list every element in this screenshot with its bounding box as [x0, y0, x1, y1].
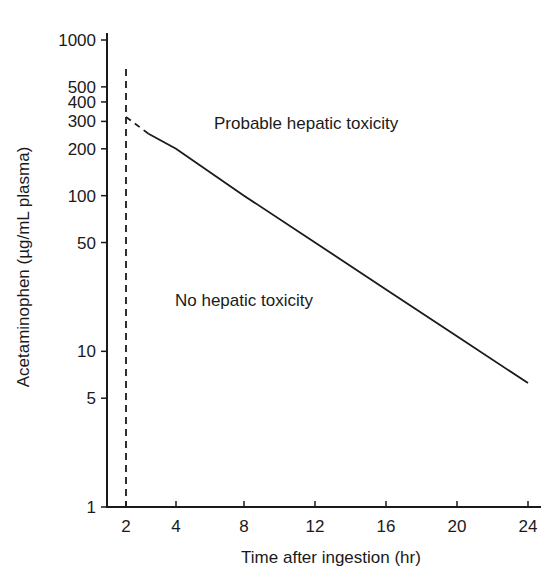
- annotation-probable-toxicity: Probable hepatic toxicity: [214, 114, 399, 133]
- y-tick-label: 5: [87, 389, 96, 408]
- x-tick-label: 24: [519, 517, 538, 536]
- y-tick-label: 50: [77, 234, 96, 253]
- x-tick-label: 8: [239, 517, 248, 536]
- y-tick-label: 1: [87, 498, 96, 517]
- x-tick-label: 12: [306, 517, 325, 536]
- y-tick-label: 200: [68, 140, 96, 159]
- acetaminophen-nomogram-chart: 1510501002003004005001000 24812162024 Pr…: [0, 0, 556, 586]
- annotation-no-toxicity: No hepatic toxicity: [175, 291, 313, 310]
- y-tick-label: 1000: [58, 31, 96, 50]
- x-tick-label: 2: [121, 517, 130, 536]
- x-axis: 24812162024: [106, 501, 541, 536]
- y-tick-label: 300: [68, 112, 96, 131]
- x-tick-label: 4: [171, 517, 180, 536]
- y-tick-label: 100: [68, 187, 96, 206]
- treatment-line-solid-segment: [149, 134, 529, 383]
- x-tick-label: 20: [448, 517, 467, 536]
- y-tick-label: 500: [68, 78, 96, 97]
- y-axis-title: Acetaminophen (µg/mL plasma): [14, 147, 33, 388]
- x-axis-title: Time after ingestion (hr): [241, 548, 421, 567]
- treatment-line-dashed-segment: [126, 117, 149, 134]
- treatment-line: [126, 117, 528, 383]
- y-axis: 1510501002003004005001000: [58, 31, 107, 517]
- x-tick-label: 16: [377, 517, 396, 536]
- y-tick-label: 10: [77, 342, 96, 361]
